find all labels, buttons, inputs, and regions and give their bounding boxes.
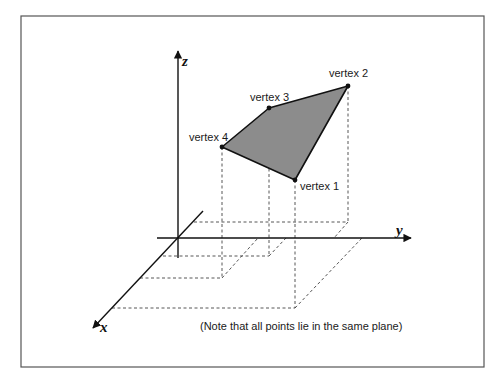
vertex-3-dot <box>267 106 272 111</box>
vertex-4-dot <box>220 145 225 150</box>
note-text: (Note that all points lie in the same pl… <box>200 320 402 332</box>
vertex-4-label: vertex 4 <box>189 131 228 143</box>
y-axis-label: y <box>394 222 403 238</box>
diagram-frame <box>21 16 484 367</box>
z-axis-label: z <box>181 53 188 69</box>
x-axis-label: x <box>99 319 108 335</box>
x-axis <box>93 211 203 328</box>
vertex-2-label: vertex 2 <box>329 67 368 79</box>
vertex-1-label: vertex 1 <box>300 180 339 192</box>
diagram-canvas: z y x vertex 1 vertex 2 vertex 3 vertex … <box>0 0 502 387</box>
vertex-1-dot <box>293 178 298 183</box>
vertex-2-dot <box>346 84 351 89</box>
vertex-3-label: vertex 3 <box>250 91 289 103</box>
